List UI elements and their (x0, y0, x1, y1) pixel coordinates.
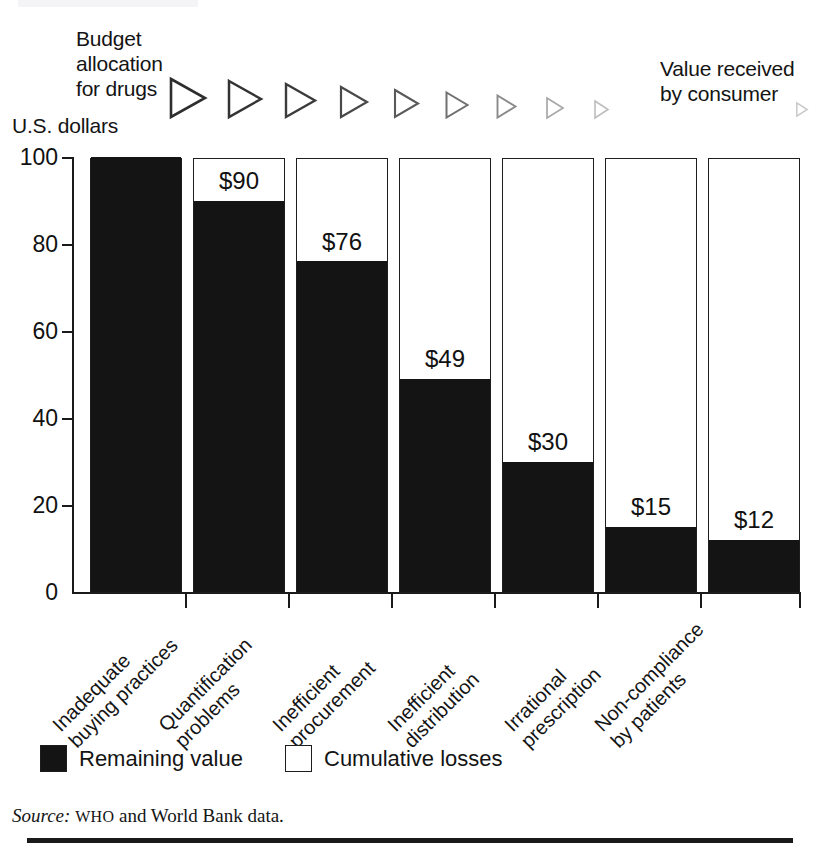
legend-item-cumulative-losses[interactable]: Cumulative losses (285, 745, 503, 772)
y-axis-line (72, 157, 74, 594)
source-note: Source: WHO and World Bank data. (12, 805, 284, 827)
x-axis-category-labels: Inadequate buying practices Quantificati… (0, 615, 825, 720)
triangle-arrow-icon-8 (545, 96, 565, 120)
y-tick-mark-80 (62, 244, 73, 246)
bar-column-7[interactable]: $12 (708, 158, 800, 593)
bar-column-5[interactable]: $30 (502, 158, 594, 593)
bar-remaining-fill-2 (194, 201, 284, 593)
x-category-label-non-compliance-by-patients: Non-compliance by patients (590, 618, 725, 753)
triangle-arrow-icon-1 (168, 76, 208, 120)
y-tick-mark-60 (62, 331, 73, 333)
x-tick-mark-6 (700, 594, 702, 608)
chart-legend: Remaining value Cumulative losses (0, 745, 825, 785)
triangle-arrow-icon-10 (795, 101, 809, 118)
x-tick-mark-1 (185, 594, 187, 608)
bar-remaining-fill-3 (297, 261, 387, 592)
triangle-arrow-icon-6 (444, 90, 470, 120)
decay-arrow-sequence (168, 72, 825, 120)
x-tick-mark-4 (494, 594, 496, 608)
x-category-label-inefficient-distribution: Inefficient distribution (383, 652, 484, 753)
bar-column-3[interactable]: $76 (296, 158, 388, 593)
x-tick-mark-2 (288, 594, 290, 608)
bar-column-2[interactable]: $90 (193, 158, 285, 593)
y-axis-label-100: 100 (0, 146, 58, 169)
x-tick-mark-7 (799, 594, 801, 608)
legend-label-cumulative-losses: Cumulative losses (324, 746, 503, 772)
triangle-arrow-icon-5 (392, 87, 421, 120)
triangle-arrow-icon-2 (226, 78, 264, 120)
y-axis-label-0: 0 (0, 581, 58, 604)
budget-allocation-annotation: Budget allocation for drugs (76, 26, 163, 101)
bar-value-label-3: $76 (297, 230, 387, 254)
y-axis-label-60: 60 (0, 320, 58, 343)
bar-value-label-7: $12 (709, 508, 799, 532)
bar-column-6[interactable]: $15 (605, 158, 697, 593)
legend-swatch-cumulative-losses (285, 745, 312, 772)
bar-remaining-fill-1 (91, 157, 181, 592)
bar-column-4[interactable]: $49 (399, 158, 491, 593)
y-axis-label-80: 80 (0, 233, 58, 256)
y-tick-mark-20 (62, 505, 73, 507)
bar-remaining-fill-4 (400, 379, 490, 592)
y-axis-label-20: 20 (0, 494, 58, 517)
source-prefix: Source: (12, 805, 70, 826)
source-rest: and World Bank data. (114, 805, 284, 826)
bar-remaining-fill-7 (709, 540, 799, 592)
bar-value-label-5: $30 (503, 430, 593, 454)
bar-remaining-fill-6 (606, 527, 696, 592)
triangle-arrow-icon-7 (495, 93, 518, 120)
y-axis-units-label: U.S. dollars (12, 113, 118, 138)
triangle-arrow-icon-3 (283, 81, 318, 120)
y-axis-label-40: 40 (0, 407, 58, 430)
bar-column-1[interactable] (90, 158, 182, 593)
bottom-rule-divider (27, 838, 793, 843)
chart-header-annotations: Budget allocation for drugs Value receiv… (0, 0, 825, 145)
y-tick-mark-40 (62, 418, 73, 420)
x-category-label-inadequate-buying-practices: Inadequate buying practices (48, 618, 183, 753)
bar-value-label-2: $90 (194, 169, 284, 193)
bar-value-label-6: $15 (606, 495, 696, 519)
legend-label-remaining-value: Remaining value (79, 746, 243, 772)
x-category-label-irrational-prescription: Irrational prescription (500, 647, 606, 753)
source-organization: WHO (75, 808, 114, 825)
legend-swatch-remaining-value (40, 745, 67, 772)
bar-remaining-fill-5 (503, 462, 593, 593)
x-category-label-inefficient-procurement: Inefficient procurement (268, 641, 380, 753)
x-tick-mark-5 (597, 594, 599, 608)
bar-value-label-4: $49 (400, 347, 490, 371)
legend-item-remaining-value[interactable]: Remaining value (40, 745, 243, 772)
y-tick-mark-100 (62, 157, 73, 159)
triangle-arrow-icon-9 (593, 99, 610, 120)
triangle-arrow-icon-4 (338, 84, 370, 120)
x-tick-mark-3 (391, 594, 393, 608)
stacked-bar-chart-plot-area: 100 80 60 40 20 0 $90 $76 $49 $30 $15 $1… (0, 145, 825, 615)
